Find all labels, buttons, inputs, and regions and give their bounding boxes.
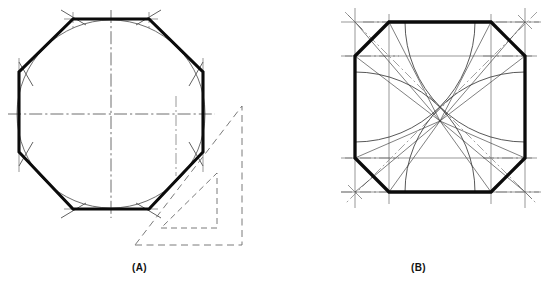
centerlines-group-a — [8, 10, 215, 218]
radius-line-tl — [355, 22, 440, 121]
panel-octagon-inscribed: (B) — [279, 0, 558, 288]
drafting-triangle-inner — [161, 173, 217, 228]
drafting-triangle-outer — [135, 106, 242, 245]
radius-line-left-lower-vertex — [355, 121, 440, 158]
panel-octagon-circumscribed: (A) — [0, 0, 279, 288]
radius-line-top-right-vertex — [440, 22, 491, 121]
diagram-b-svg — [279, 0, 558, 288]
radius-line-tr — [440, 22, 525, 121]
panel-b-caption: (B) — [279, 262, 558, 273]
diagram-a-svg — [0, 0, 279, 288]
panel-a-caption: (A) — [0, 262, 279, 273]
construction-arcs-group — [355, 22, 525, 192]
radius-line-left-upper-vertex — [355, 56, 440, 121]
radius-line-right-upper-vertex — [440, 56, 525, 121]
figure-root: (A) — [0, 0, 558, 288]
radius-line-bottom-left-vertex — [389, 121, 440, 192]
radius-line-bl — [355, 121, 440, 192]
centerlines-group-b — [341, 22, 541, 192]
radius-line-right-lower-vertex — [440, 121, 525, 158]
radius-line-bottom-right-vertex — [440, 121, 491, 192]
radius-line-br — [440, 121, 525, 192]
radius-line-top-left-vertex — [389, 22, 440, 121]
